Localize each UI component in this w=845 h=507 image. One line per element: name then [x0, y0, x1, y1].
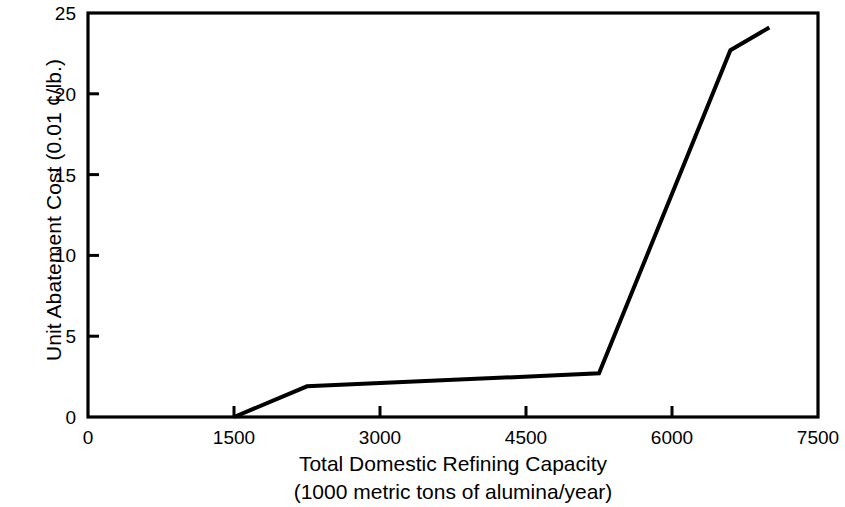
- x-axis-tick-label: 0: [83, 428, 94, 447]
- axis-ticks: [88, 94, 672, 417]
- y-axis-tick-label: 25: [30, 4, 76, 23]
- x-axis-tick-label: 6000: [651, 428, 693, 447]
- x-axis-tick-label: 7500: [797, 428, 839, 447]
- x-axis-tick-label: 4500: [505, 428, 547, 447]
- chart-figure: Unit Abatement Cost (0.01 ¢/lb.) Total D…: [0, 0, 845, 507]
- plot-area: [0, 0, 845, 507]
- x-axis-tick-label: 1500: [213, 428, 255, 447]
- data-series-group: [234, 28, 769, 417]
- x-axis-tick-label: 3000: [359, 428, 401, 447]
- axis-frame: [88, 13, 818, 417]
- y-axis-tick-label: 20: [30, 84, 76, 103]
- y-axis-tick-label: 5: [30, 327, 76, 346]
- y-axis-tick-label: 10: [30, 246, 76, 265]
- y-axis-tick-label: 0: [30, 408, 76, 427]
- y-axis-tick-label: 15: [30, 165, 76, 184]
- data-line: [234, 28, 769, 417]
- plot-frame: [88, 13, 818, 417]
